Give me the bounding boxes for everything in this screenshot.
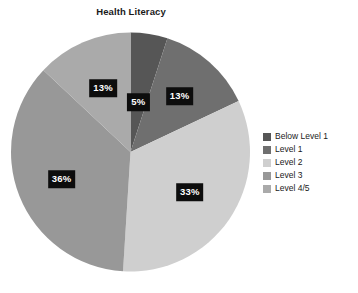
legend-item: Below Level 1 [263, 131, 328, 142]
legend-swatch-icon [263, 185, 271, 193]
pie-slice-label: 13% [166, 88, 194, 106]
legend-item-label: Level 4/5 [275, 184, 310, 193]
pie-svg [11, 32, 251, 272]
pie-slice-label: 5% [127, 94, 149, 112]
legend-item: Level 3 [263, 170, 328, 181]
legend-swatch-icon [263, 133, 271, 141]
legend-swatch-icon [263, 146, 271, 154]
legend-item-label: Level 3 [275, 171, 302, 180]
pie-slice-group [11, 33, 250, 272]
pie-slice-label: 33% [176, 184, 204, 202]
legend-item-label: Level 2 [275, 158, 302, 167]
pie-chart: 5%13%33%36%13% [11, 32, 251, 272]
legend-item-label: Below Level 1 [275, 132, 328, 141]
legend-swatch-icon [263, 172, 271, 180]
pie-slice-label: 36% [48, 171, 76, 189]
legend-item: Level 2 [263, 157, 328, 168]
legend-item: Level 1 [263, 144, 328, 155]
chart-title: Health Literacy [0, 6, 262, 17]
legend-swatch-icon [263, 159, 271, 167]
legend: Below Level 1Level 1Level 2Level 3Level … [263, 131, 328, 194]
legend-item: Level 4/5 [263, 183, 328, 194]
chart-canvas: Health Literacy 5%13%33%36%13% Below Lev… [0, 0, 358, 293]
pie-slice-label: 13% [89, 80, 117, 98]
legend-item-label: Level 1 [275, 145, 302, 154]
